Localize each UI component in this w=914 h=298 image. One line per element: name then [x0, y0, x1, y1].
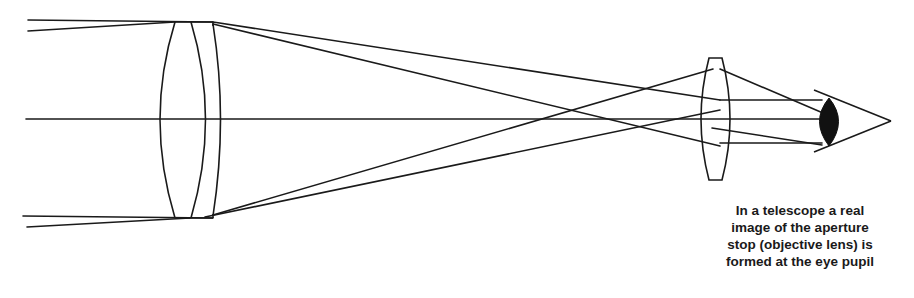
ray-top-to-eyepiece-mid: [213, 22, 720, 100]
eye: [814, 90, 891, 152]
ray-bottom-to-eyepiece-top: [213, 69, 713, 215]
objective-crown-back: [191, 22, 206, 218]
objective-flint-back: [213, 24, 221, 216]
objective-lens: [160, 22, 221, 218]
caption-line-1: In a telescope a real: [700, 202, 900, 219]
caption-line-2: image of the aperture: [700, 219, 900, 236]
ray-top-to-eyepiece-low: [213, 24, 720, 146]
caption-line-4: formed at the eye pupil: [700, 253, 900, 270]
caption-line-3: stop (objective lens) is: [700, 236, 900, 253]
objective-crown-element: [160, 22, 175, 218]
eye-pupil-lens: [820, 98, 839, 146]
ray-eyepiece-to-eye-1: [720, 69, 830, 116]
incoming-ray-top-oblique: [28, 22, 175, 31]
incoming-ray-bottom-oblique: [27, 218, 190, 227]
diagram-caption: In a telescope a real image of the apert…: [700, 202, 900, 270]
ray-bottom-to-eyepiece-mid: [205, 110, 720, 217]
